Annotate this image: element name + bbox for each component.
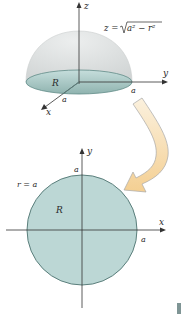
disk-boundary-label: r = a [17, 180, 38, 189]
radius-label-y: a [131, 86, 136, 95]
y-axis-label: y [162, 68, 169, 78]
disk-top-a-label: a [74, 165, 79, 174]
surface-equation: z = a² − r² [103, 22, 162, 33]
x-axis-label: x [46, 107, 51, 117]
region-label-3d: R [51, 78, 59, 88]
hemisphere-diagram: z y x R a a z = a² − r² [26, 1, 169, 117]
z-axis-arrowhead-icon [77, 2, 82, 8]
equation-radicand: a² − r² [127, 23, 156, 33]
z-axis-label: z [83, 1, 89, 11]
y-axis-arrowhead-icon [162, 80, 168, 85]
disk-right-a-label: a [141, 235, 146, 244]
equation-lhs: z = [103, 23, 118, 33]
corner-marker [177, 303, 181, 314]
figure-canvas: z y x R a a z = a² − r² y x a a r = a R [0, 0, 181, 318]
disk-y-axis-arrowhead-icon [80, 148, 85, 154]
radius-label-x: a [62, 95, 67, 104]
disk-x-axis-arrowhead-icon [160, 228, 166, 233]
disk-x-axis-label: x [159, 217, 164, 227]
disk-y-axis-label: y [86, 146, 93, 156]
disk-region-label: R [55, 205, 63, 215]
disk-diagram: y x a a r = a R [6, 146, 166, 308]
transition-arrow-icon [124, 98, 168, 192]
